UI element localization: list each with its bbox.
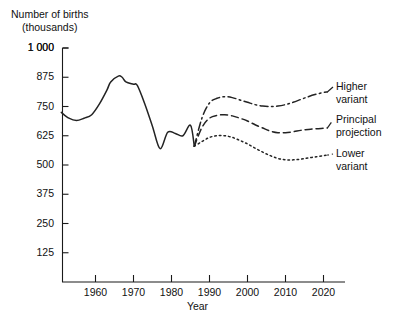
y-axis-ticks — [63, 48, 69, 253]
series-leader-line — [327, 120, 333, 128]
x-axis-ticks — [96, 275, 324, 282]
series-line-historical-births — [61, 76, 194, 149]
series-label-line1: Principal — [336, 113, 382, 126]
x-tick-label: 2010 — [266, 286, 306, 298]
series-label-higher-variant: Highervariant — [336, 80, 368, 105]
x-tick-label: 1980 — [152, 286, 192, 298]
y-tick-label: 125 — [8, 246, 54, 258]
series-label-line1: Higher — [336, 80, 368, 93]
series-label-principal-projection: Principalprojection — [336, 113, 382, 138]
y-tick-label: 875 — [8, 70, 54, 82]
y-tick-label: 750 — [8, 100, 54, 112]
series-leader-line — [327, 154, 333, 155]
series-line-principal-projection — [194, 115, 327, 147]
series-line-higher-variant — [194, 92, 327, 146]
x-tick-label: 2000 — [228, 286, 268, 298]
series-label-line1: Lower — [336, 147, 368, 160]
series-line-lower-variant — [194, 136, 327, 160]
x-tick-label: 1970 — [114, 286, 154, 298]
births-projection-chart: Number of births (thousands) 12525037550… — [0, 0, 395, 324]
data-series-group — [61, 76, 327, 160]
series-label-line2: variant — [336, 93, 368, 106]
series-label-lower-variant: Lowervariant — [336, 147, 368, 172]
y-tick-label: 625 — [8, 129, 54, 141]
axes — [63, 48, 346, 282]
series-label-line2: projection — [336, 126, 382, 139]
series-leader-line — [327, 87, 333, 92]
y-tick-label: 500 — [8, 158, 54, 170]
x-tick-label: 1990 — [190, 286, 230, 298]
x-tick-label: 2020 — [304, 286, 344, 298]
x-axis-title: Year — [0, 300, 395, 313]
y-tick-label: 250 — [8, 217, 54, 229]
x-tick-label: 1960 — [76, 286, 116, 298]
y-tick-label: 375 — [8, 187, 54, 199]
series-label-line2: variant — [336, 160, 368, 173]
y-tick-label: 1 000 — [8, 41, 54, 53]
label-leader-lines — [327, 87, 333, 155]
